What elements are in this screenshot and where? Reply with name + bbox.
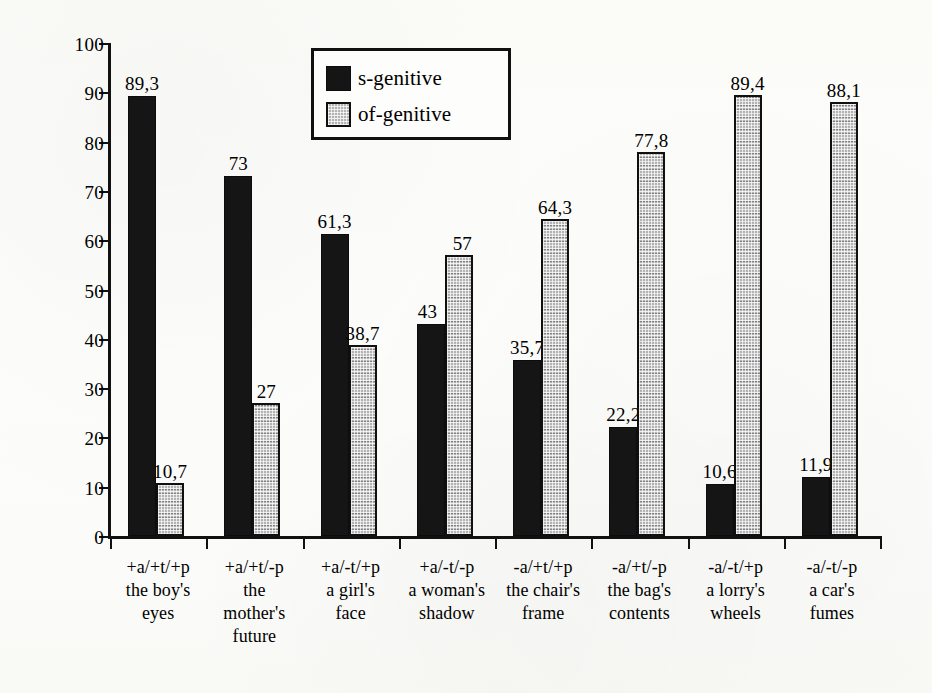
legend-swatch-s-genitive-icon: [326, 66, 351, 91]
y-tick-label: 40: [84, 330, 104, 349]
bar-value-label: 89,3: [125, 74, 159, 93]
bar-value-label: 73: [229, 154, 248, 173]
bar-value-label: 27: [257, 382, 276, 401]
bar-of-genitive[interactable]: 27: [252, 403, 280, 536]
bar-of-genitive[interactable]: 57: [445, 255, 473, 536]
bar-value-label: 43: [418, 302, 437, 321]
bar-group: 22,277,8: [591, 44, 687, 537]
bar-of-genitive[interactable]: 64,3: [541, 219, 569, 536]
y-tick-label: 30: [84, 380, 104, 399]
x-category-label: -a/-t/-pa car'sfumes: [776, 556, 888, 625]
bar-s-genitive[interactable]: 73: [224, 176, 252, 536]
bar-s-genitive[interactable]: 22,2: [609, 427, 637, 536]
y-tick-label: 80: [84, 133, 104, 152]
bar-group: 11,988,1: [784, 44, 880, 537]
bar-of-genitive[interactable]: 38,7: [349, 345, 377, 536]
bar-of-genitive[interactable]: 77,8: [637, 152, 665, 536]
y-tick-label: 100: [75, 35, 104, 54]
bar-group: 7327: [206, 44, 302, 537]
y-tick-label: 70: [84, 182, 104, 201]
bar-value-label: 10,7: [153, 462, 187, 481]
bar-group: 89,310,7: [110, 44, 206, 537]
y-tick-label: 0: [94, 528, 104, 547]
x-tick-mark: [880, 537, 882, 549]
chart-figure: relative frequency (in %) 01020304050607…: [0, 0, 932, 693]
chart-legend: s-genitive of-genitive: [311, 48, 511, 140]
y-tick-label: 20: [84, 429, 104, 448]
bar-value-label: 64,3: [538, 198, 572, 217]
bar-s-genitive[interactable]: 89,3: [128, 96, 156, 536]
bar-value-label: 38,7: [346, 324, 380, 343]
bar-s-genitive[interactable]: 10,6: [706, 484, 734, 536]
x-tick-mark: [591, 537, 593, 549]
bar-value-label: 57: [453, 234, 472, 253]
bar-value-label: 88,1: [827, 81, 861, 100]
bar-value-label: 61,3: [318, 212, 352, 231]
bar-value-label: 10,6: [703, 462, 737, 481]
bar-of-genitive[interactable]: 88,1: [830, 102, 858, 536]
x-tick-mark: [399, 537, 401, 549]
bar-of-genitive[interactable]: 89,4: [734, 95, 762, 536]
bar-value-label: 11,9: [799, 455, 832, 474]
bar-s-genitive[interactable]: 43: [417, 324, 445, 536]
bar-s-genitive[interactable]: 35,7: [513, 360, 541, 536]
bar-s-genitive[interactable]: 61,3: [321, 234, 349, 536]
x-category-example-line: a car's: [776, 579, 888, 602]
y-tick-label: 60: [84, 232, 104, 251]
bar-value-label: 77,8: [634, 131, 668, 150]
x-tick-mark: [206, 537, 208, 549]
legend-item-s-genitive[interactable]: s-genitive: [326, 60, 498, 96]
x-category-example-line: fumes: [776, 602, 888, 625]
bar-value-label: 35,7: [510, 338, 544, 357]
legend-swatch-of-genitive-icon: [326, 102, 351, 127]
x-tick-mark: [784, 537, 786, 549]
x-category-example-line: future: [198, 625, 310, 648]
x-tick-mark: [110, 537, 112, 549]
bar-s-genitive[interactable]: 11,9: [802, 477, 830, 536]
legend-item-of-genitive[interactable]: of-genitive: [326, 96, 498, 132]
legend-label-of-genitive: of-genitive: [358, 104, 451, 125]
legend-label-s-genitive: s-genitive: [358, 68, 442, 89]
x-tick-mark: [303, 537, 305, 549]
x-category-code: -a/-t/-p: [776, 556, 888, 579]
y-tick-label: 90: [84, 84, 104, 103]
bar-value-label: 89,4: [731, 74, 765, 93]
x-tick-mark: [495, 537, 497, 549]
bar-value-label: 22,2: [606, 405, 640, 424]
bar-of-genitive[interactable]: 10,7: [156, 483, 184, 536]
x-tick-mark: [688, 537, 690, 549]
y-tick-label: 10: [84, 478, 104, 497]
y-tick-label: 50: [84, 281, 104, 300]
bar-group: 10,689,4: [688, 44, 784, 537]
